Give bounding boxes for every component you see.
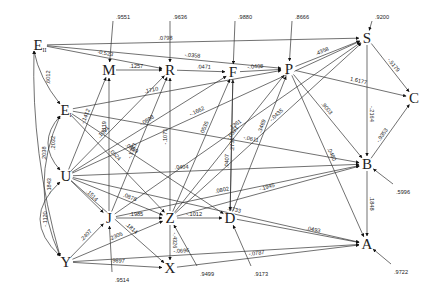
path-coefficient-label: .2407 <box>79 228 93 242</box>
path-arrow-J-R <box>112 77 167 211</box>
path-coefficient-label: .9897 <box>111 257 125 264</box>
path-arrow-R-F <box>177 70 225 72</box>
path-coefficient-label: -.0898 <box>138 114 155 127</box>
path-arrow-X-A <box>177 245 359 267</box>
disturbance-arrow-P <box>289 21 292 61</box>
disturbance-label: .9514 <box>115 277 129 283</box>
node-D: D <box>225 210 236 226</box>
diagram-svg: .0798.1257-0.523.0471-.0358-.0408.4358-.… <box>0 0 430 291</box>
disturbance-label: .9636 <box>173 14 187 20</box>
path-arrow-P-B <box>293 74 361 157</box>
path-arrow-U-B <box>73 164 359 175</box>
disturbance-label: .5996 <box>396 189 410 195</box>
path-diagram: .0798.1257-0.523.0471-.0358-.0408.4358-.… <box>0 0 430 291</box>
path-coefficient-label: .0471 <box>197 63 211 69</box>
path-coefficient-label: .1514 <box>85 188 99 202</box>
path-coefficient-label: .0798 <box>158 35 172 41</box>
disturbance-arrow-A <box>373 249 391 264</box>
node-P: P <box>285 61 293 77</box>
path-coefficient-label: .1257 <box>129 63 143 69</box>
path-coefficient-label: .1985 <box>129 211 143 217</box>
correlation-label: .2038 <box>41 147 47 161</box>
disturbance-label: .9499 <box>200 271 214 277</box>
nodes: EIIEIMRFPSCUJZDBAXY <box>33 30 420 276</box>
correlation-label: -.1843 <box>46 178 52 194</box>
node-A: A <box>362 236 373 252</box>
path-coefficient-label: .0493 <box>306 225 321 234</box>
path-coefficient-label: -.0408 <box>247 63 263 70</box>
path-arrow-B-C <box>371 105 409 159</box>
path-coefficient-label: .0524 <box>108 148 122 162</box>
disturbance-label: .9173 <box>254 271 268 277</box>
path-coefficient-label: .1710 <box>144 86 159 94</box>
path-coefficient-label: -.1071 <box>163 129 169 145</box>
path-coefficient-label: .2305 <box>108 231 123 242</box>
path-coefficient-label: .0802 <box>215 185 230 194</box>
path-arrow-U-Z <box>72 179 162 215</box>
path-arrow-U-M <box>69 77 106 169</box>
path-coefficient-label: -.0611 <box>243 134 259 143</box>
correlation-label: .2032 <box>50 136 56 150</box>
path-coefficient-label: .3469 <box>256 118 267 133</box>
path-coefficient-label: -.0358 <box>184 51 200 58</box>
path-coefficient-label: -.1412 <box>80 108 92 125</box>
path-coefficient-label: .4358 <box>314 46 329 57</box>
node-J: J <box>106 210 112 226</box>
node-F: F <box>229 64 237 80</box>
path-coefficient-label: .9003 <box>320 101 334 116</box>
path-coefficient-label: .0480 <box>326 147 337 162</box>
node-X: X <box>165 260 176 276</box>
node-R: R <box>165 62 175 78</box>
path-arrow-Z-B <box>177 166 360 216</box>
path-coefficient-label: -.4326 <box>172 232 178 248</box>
disturbance-label: .8666 <box>295 14 309 20</box>
path-coefficient-label: .0878 <box>122 192 137 203</box>
path-coefficient-label: -.9353 <box>375 127 389 143</box>
disturbance-arrow-J <box>109 226 112 272</box>
path-coefficient-label: -.1012 <box>186 211 202 217</box>
path-coefficient-label: -.0696 <box>173 247 189 254</box>
disturbance-label: .9880 <box>238 14 252 20</box>
disturbance-label: .9200 <box>375 14 389 20</box>
path-coefficient-label: -.5179 <box>386 57 401 73</box>
disturbance-arrow-F <box>233 21 235 64</box>
path-arrow-Y-Z <box>72 221 162 259</box>
path-arrow-E_II-S <box>47 38 359 45</box>
disturbance-arrow-B <box>373 169 393 184</box>
disturbance-label: .9722 <box>394 269 408 275</box>
path-coefficient-label: -.0787 <box>248 249 264 257</box>
path-coefficient-label: .0407 <box>224 154 230 168</box>
path-arrow-P-C <box>296 71 406 97</box>
path-coefficient-label: -.2164 <box>369 106 375 122</box>
node-C: C <box>409 90 419 106</box>
node-Y: Y <box>61 254 72 270</box>
path-arrow-U-X <box>71 181 164 263</box>
correlation-label: .6012 <box>45 71 51 85</box>
path-coefficient-label: .1848 <box>369 197 375 211</box>
path-coefficient-label: .1814 <box>125 221 139 235</box>
disturbance-label: .9551 <box>116 14 130 20</box>
node-U: U <box>61 168 72 184</box>
path-arrow-D-A <box>237 219 359 242</box>
disturbance-arrow-S <box>369 21 372 30</box>
node-B: B <box>362 156 372 172</box>
correlation-label: -.1120 <box>42 211 48 226</box>
node-Z: Z <box>165 210 174 226</box>
path-coefficient-label: .0535 <box>198 120 209 135</box>
node-M: M <box>102 62 115 78</box>
node-S: S <box>363 30 371 46</box>
path-arrow-S-C <box>371 44 409 92</box>
path-coefficient-label: -.1945 <box>258 182 275 192</box>
path-arrow-P-A <box>292 75 364 236</box>
path-coefficient-label: -.0435 <box>268 107 284 122</box>
path-coefficient-label: -.1662 <box>188 105 205 117</box>
path-coefficient-label: .0404 <box>174 164 188 171</box>
